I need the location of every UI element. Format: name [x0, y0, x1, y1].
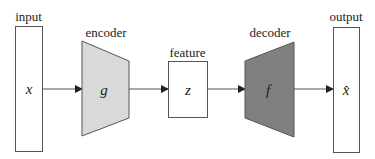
feature-symbol: z	[184, 82, 191, 98]
feature-node: feature z	[169, 45, 208, 118]
output-label: output	[329, 9, 363, 24]
input-label: input	[15, 9, 42, 24]
feature-label: feature	[169, 45, 205, 60]
autoencoder-diagram: input x encoder g feature z decoder f ou…	[0, 0, 375, 159]
output-symbol: x̂	[342, 82, 350, 98]
output-node: output x̂	[329, 9, 363, 153]
encoder-label: encoder	[85, 25, 127, 40]
decoder-label: decoder	[249, 25, 291, 40]
encoder-symbol: g	[100, 82, 108, 98]
input-node: input x	[15, 9, 42, 152]
input-symbol: x	[25, 81, 33, 97]
encoder-node: encoder g	[82, 25, 129, 136]
decoder-node: decoder f	[245, 25, 294, 137]
